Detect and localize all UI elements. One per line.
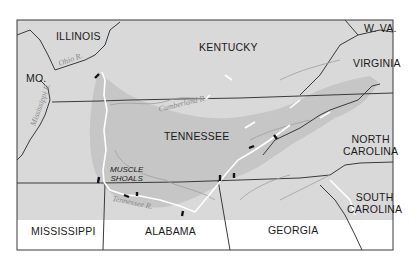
state-label-north-carolina: NORTH CAROLINA xyxy=(343,133,398,157)
state-label-tennessee: TENNESSEE xyxy=(164,131,229,142)
state-label-west-virginia: W. VA. xyxy=(364,23,397,34)
state-label-kentucky: KENTUCKY xyxy=(199,42,258,53)
state-label-illinois: ILLINOIS xyxy=(56,31,101,42)
place-label-muscle-shoals: MUSCLE SHOALS xyxy=(110,165,143,183)
state-label-south-carolina: SOUTH CAROLINA xyxy=(347,191,402,215)
state-label-georgia: GEORGIA xyxy=(268,225,318,236)
state-label-alabama: ALABAMA xyxy=(145,226,196,237)
state-label-virginia: VIRGINIA xyxy=(353,58,401,69)
dam-marker xyxy=(98,177,99,183)
dam-marker xyxy=(182,211,183,216)
state-label-mississippi: MISSISSIPPI xyxy=(31,226,96,237)
